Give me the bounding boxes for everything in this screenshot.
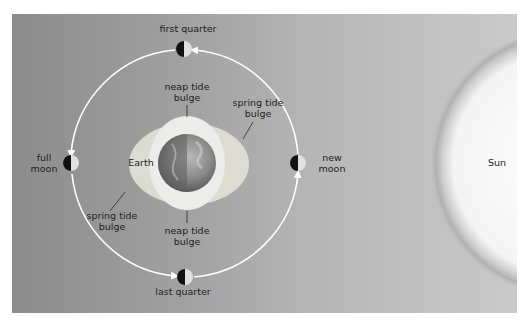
label-neap-top-line2: bulge xyxy=(160,92,214,103)
label-earth: Earth xyxy=(126,157,156,168)
label-neap-bottom-line2: bulge xyxy=(160,236,214,247)
label-sun: Sun xyxy=(482,157,512,168)
diagram-panel: first quarter last quarter full moon new… xyxy=(12,14,517,313)
label-spring-right-line2: bulge xyxy=(228,108,288,119)
label-spring-right-line1: spring tide xyxy=(228,97,288,108)
label-new-moon-line1: new xyxy=(314,152,350,163)
label-full-moon-line2: moon xyxy=(30,163,58,174)
label-spring-left: spring tide bulge xyxy=(82,210,142,232)
label-last-quarter: last quarter xyxy=(153,286,213,297)
label-spring-left-line1: spring tide xyxy=(82,210,142,221)
earth-globe xyxy=(158,134,216,192)
label-neap-top: neap tide bulge xyxy=(160,81,214,103)
label-new-moon: new moon xyxy=(314,152,350,174)
label-spring-left-line2: bulge xyxy=(82,221,142,232)
label-full-moon-line1: full xyxy=(30,152,58,163)
label-first-quarter: first quarter xyxy=(158,23,218,34)
moon-first-quarter xyxy=(176,41,192,57)
moon-new xyxy=(290,155,306,171)
label-new-moon-line2: moon xyxy=(314,163,350,174)
label-neap-bottom: neap tide bulge xyxy=(160,225,214,247)
label-full-moon: full moon xyxy=(30,152,58,174)
label-neap-bottom-line1: neap tide xyxy=(160,225,214,236)
moon-full xyxy=(63,155,79,171)
moon-last-quarter xyxy=(177,269,193,285)
label-neap-top-line1: neap tide xyxy=(160,81,214,92)
label-spring-right: spring tide bulge xyxy=(228,97,288,119)
diagram-graphics xyxy=(12,14,517,313)
